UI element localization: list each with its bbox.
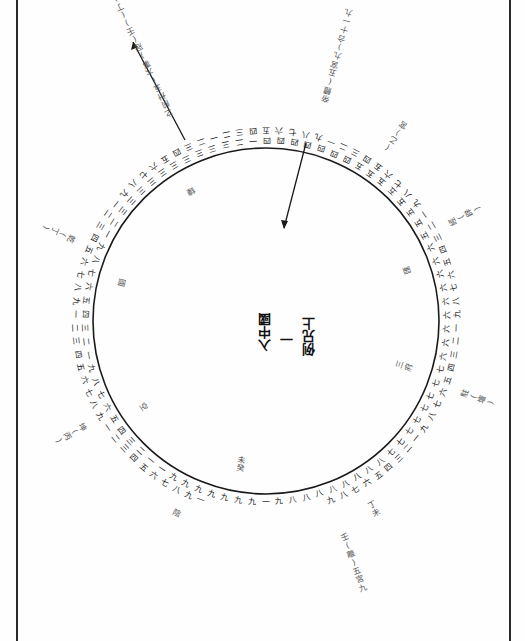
ring-numeral: 一 (262, 498, 270, 507)
ring-numeral: 九 (274, 497, 283, 507)
ring-numeral: 二 (234, 137, 243, 147)
ring-numeral: 七 (75, 270, 86, 280)
radial-label-bottom-center-inner: 未 (237, 454, 247, 465)
ring-numeral: 五 (442, 375, 453, 385)
ring-numeral: 九 (452, 310, 461, 318)
radial-label-left-lower: ) (54, 437, 63, 444)
ring-numeral: 七 (432, 399, 444, 410)
ring-numeral: 八 (89, 399, 101, 410)
center-title-col1: 例兄上 (302, 317, 316, 356)
top-center-arrowhead-icon (281, 220, 288, 229)
ring-numeral: 六 (361, 476, 373, 489)
ring-numeral: 六 (445, 270, 457, 280)
ring-numeral: 九 (248, 497, 257, 507)
ring-numeral: 八 (288, 495, 297, 505)
ring-numeral: 四 (73, 349, 83, 358)
radial-label-right-upper: ) (472, 205, 481, 212)
ring-numeral: 五 (75, 362, 86, 372)
ring-numeral: 三 (207, 143, 217, 154)
ring-numeral: 九 (193, 483, 204, 494)
ring-numeral: 九 (86, 364, 97, 374)
ring-numeral: 三 (350, 147, 361, 159)
ring-numeral: 七 (83, 387, 94, 398)
radial-label-bottom-left: 陰 (171, 506, 182, 518)
ring-numeral: 二 (426, 220, 438, 231)
ring-numeral: 三 (71, 337, 81, 346)
ring-numeral: 五 (442, 257, 453, 267)
ring-numeral: 七 (449, 283, 459, 292)
ring-numeral: 七 (350, 484, 361, 496)
ring-numeral: 四 (276, 136, 285, 146)
radial-label-top-left-inner: 鐘 (185, 185, 197, 198)
ring-numeral: 三 (449, 349, 459, 358)
ring-numeral: 一 (70, 310, 79, 318)
ring-numeral: 九 (314, 132, 324, 143)
ring-numeral: 九 (326, 495, 337, 506)
ring-numeral: 三 (183, 141, 194, 152)
ring-numeral: 七 (435, 365, 446, 375)
center-title-col2: 一 (280, 333, 294, 346)
ring-numeral: 六 (275, 126, 284, 137)
ring-numeral: 九 (183, 490, 194, 501)
ring-numeral: 六 (434, 269, 446, 279)
radial-label-left-inner-lower: 空 (137, 401, 150, 413)
scanned-page: 一九九九九九九九一一二三四五六七八九一二三四五六七八九一二三三三三三三三三三三二… (0, 0, 525, 641)
ring-numeral: 八 (338, 490, 349, 501)
ring-numeral: 四 (171, 147, 182, 159)
ring-numeral: 六 (441, 311, 451, 319)
ring-numeral: 四 (437, 244, 448, 255)
ring-numeral: 六 (83, 281, 94, 291)
ring-numeral: 六 (79, 257, 91, 268)
radial-label-bottom-right-arrow: 壬 (339, 531, 350, 543)
ring-numeral: 三 (235, 127, 244, 137)
ring-numeral: 四 (263, 135, 271, 144)
radial-label-right-lower: ) (486, 400, 496, 406)
top-center-pointer-line (284, 143, 306, 228)
ring-numeral: 六 (438, 283, 449, 293)
ring-numeral: 八 (90, 254, 101, 265)
ring-numeral: 三 (193, 147, 204, 158)
ring-numeral: 二 (81, 337, 91, 346)
ring-numeral: 二 (338, 141, 349, 152)
ring-numeral: 四 (303, 140, 313, 151)
ring-numeral: 四 (89, 232, 101, 243)
ring-numeral: 九 (220, 492, 230, 503)
radial-label-top-left-arrow: ) (112, 0, 119, 3)
ring-numeral: 四 (316, 143, 326, 154)
ring-numeral: 七 (86, 268, 97, 278)
ring-numeral: 八 (90, 377, 101, 388)
ring-numeral: 六 (430, 255, 442, 266)
ring-numeral: 三 (220, 139, 230, 150)
ring-numeral: 四 (446, 362, 457, 372)
ring-numeral: 五 (81, 295, 91, 304)
ring-numeral: 二 (221, 129, 231, 139)
ring-numeral: 二 (70, 324, 79, 332)
ring-numeral: 四 (248, 126, 257, 136)
ring-numeral: 六 (441, 325, 451, 333)
ring-numeral: 八 (171, 484, 182, 496)
ring-numeral: 七 (288, 127, 297, 137)
ring-numeral: 六 (79, 374, 91, 385)
ring-numeral: 三 (80, 323, 89, 331)
ring-numeral: 一 (83, 350, 93, 360)
ring-numeral: 一 (452, 324, 461, 332)
center-title-col3: 入中國 (258, 313, 272, 352)
ring-numeral: 六 (440, 297, 451, 306)
ring-numeral: 八 (301, 492, 311, 503)
ring-numeral: 五 (83, 244, 94, 255)
ring-numeral: 一 (326, 136, 337, 147)
ring-numeral: 三 (432, 232, 444, 243)
ring-numeral: 五 (262, 126, 270, 135)
ring-numeral: 二 (451, 337, 461, 346)
ring-numeral: 九 (71, 297, 81, 306)
center-title: 例兄上 一 入中國 (248, 296, 318, 356)
ring-numeral: 八 (451, 297, 461, 306)
ring-numeral: 一 (248, 136, 257, 146)
ring-numeral: 四 (80, 310, 89, 318)
radial-label-bottom-right-arrow: 九 (358, 582, 369, 593)
ring-numeral: 一 (208, 132, 218, 143)
radial-label-top-center-arrow: 九 (344, 7, 354, 18)
ring-numeral: 七 (430, 378, 441, 389)
radial-label-right-inner-upper: 匯 (401, 264, 412, 275)
ring-numeral: 八 (314, 488, 324, 499)
